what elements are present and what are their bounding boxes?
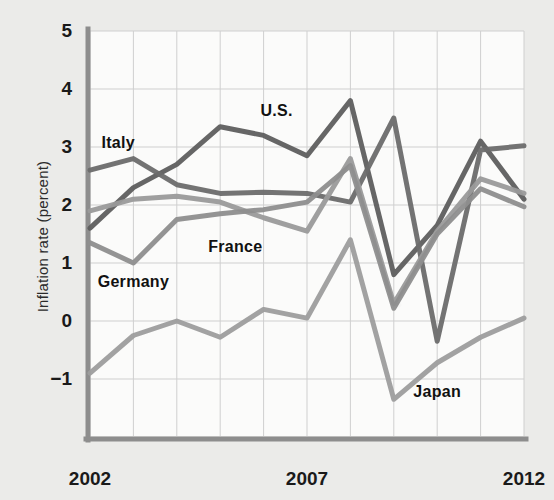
plot-area [0,0,554,500]
series-label-france: France [208,238,262,256]
inflation-rate-line-chart: Inflation rate (percent) 543210−1 200220… [0,0,554,500]
x-tick-label: 2002 [69,468,111,490]
x-tick-label: 2012 [503,468,545,490]
series-label-germany: Germany [98,273,169,291]
series-label-japan: Japan [413,383,461,401]
series-label-us: U.S. [260,102,292,120]
x-tick-label: 2007 [286,468,328,490]
series-label-italy: Italy [101,134,135,152]
